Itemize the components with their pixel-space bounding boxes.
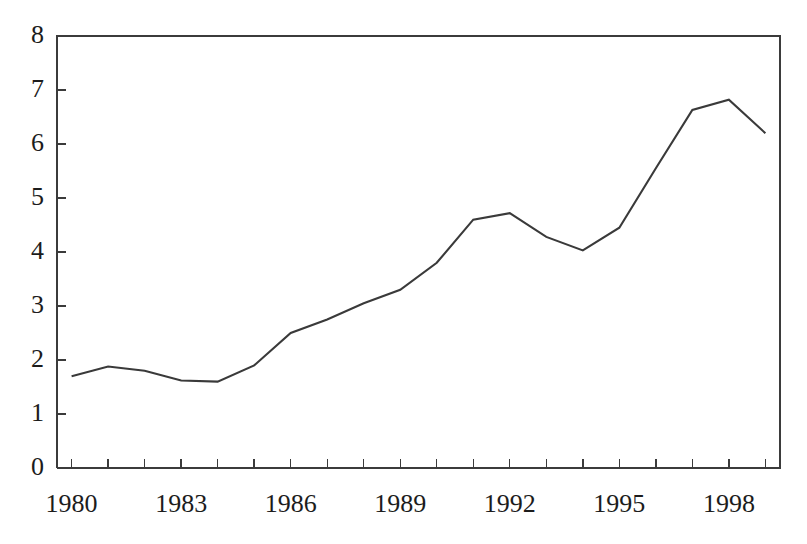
plot-frame [57,36,780,468]
chart-figure: 012345678 1980198319861989199219951998 [0,0,807,544]
y-tick-label: 4 [31,236,44,265]
y-axis-tick-labels: 012345678 [31,20,44,481]
x-tick-label: 1992 [484,489,536,518]
y-tick-label: 6 [31,128,44,157]
x-tick-label: 1998 [703,489,755,518]
x-tick-label: 1995 [593,489,645,518]
y-tick-label: 1 [31,398,44,427]
series-polyline [72,100,766,382]
x-axis-tick-labels: 1980198319861989199219951998 [46,489,755,518]
x-tick-label: 1980 [46,489,98,518]
y-tick-label: 3 [31,290,44,319]
y-tick-label: 5 [31,182,44,211]
x-tick-label: 1986 [265,489,317,518]
x-tick-label: 1989 [374,489,426,518]
y-tick-label: 7 [31,74,44,103]
x-tick-label: 1983 [155,489,207,518]
y-tick-label: 8 [31,20,44,49]
x-axis-ticks [72,459,766,468]
line-chart: 012345678 1980198319861989199219951998 [0,0,807,544]
data-series-line [72,100,766,382]
y-tick-label: 0 [31,452,44,481]
y-tick-label: 2 [31,344,44,373]
y-axis-ticks [57,90,66,414]
